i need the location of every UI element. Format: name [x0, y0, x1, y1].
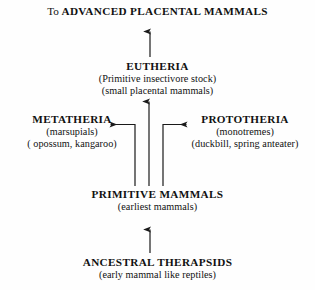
- mammal-evolution-diagram: To ADVANCED PLACENTAL MAMMALS EUTHERIA (…: [0, 0, 315, 290]
- node-prototheria-description-2: (duckbill, spring anteater): [175, 138, 315, 150]
- node-metatheria-description-2: ( opossum, kangaroo): [2, 138, 142, 150]
- node-metatheria: METATHERIA (marsupials) ( opossum, kanga…: [2, 113, 142, 150]
- node-advanced-placental-mammals: To ADVANCED PLACENTAL MAMMALS: [0, 5, 315, 18]
- node-primitive-mammals-description-1: (earliest mammals): [0, 201, 315, 213]
- node-eutheria-description-1: (Primitive insectivore stock): [0, 73, 315, 85]
- node-ancestral-therapsids: ANCESTRAL THERAPSIDS (early mammal like …: [0, 256, 315, 281]
- node-metatheria-taxon-label: METATHERIA: [2, 113, 142, 126]
- node-ancestral-therapsids-taxon-label: ANCESTRAL THERAPSIDS: [0, 256, 315, 269]
- node-advanced-placental-mammals-title: To ADVANCED PLACENTAL MAMMALS: [0, 5, 315, 18]
- node-advanced-taxon-label: ADVANCED PLACENTAL MAMMALS: [62, 5, 268, 17]
- node-advanced-lead-text: To: [47, 5, 59, 17]
- node-prototheria-description-1: (monotremes): [175, 126, 315, 138]
- node-eutheria-taxon-label: EUTHERIA: [0, 60, 315, 73]
- node-prototheria: PROTOTHERIA (monotremes) (duckbill, spri…: [175, 113, 315, 150]
- node-primitive-mammals: PRIMITIVE MAMMALS (earliest mammals): [0, 188, 315, 213]
- node-metatheria-description-1: (marsupials): [2, 126, 142, 138]
- node-ancestral-therapsids-description-1: (early mammal like reptiles): [0, 269, 315, 281]
- node-eutheria-description-2: (small placental mammals): [0, 85, 315, 97]
- node-primitive-mammals-taxon-label: PRIMITIVE MAMMALS: [0, 188, 315, 201]
- node-prototheria-taxon-label: PROTOTHERIA: [175, 113, 315, 126]
- node-eutheria: EUTHERIA (Primitive insectivore stock) (…: [0, 60, 315, 97]
